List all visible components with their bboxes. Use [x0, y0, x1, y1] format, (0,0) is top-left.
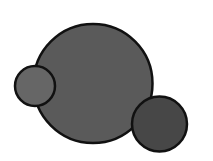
- right-circle: [132, 97, 187, 152]
- circles-diagram: [0, 0, 213, 161]
- small-left-circle: [15, 66, 55, 106]
